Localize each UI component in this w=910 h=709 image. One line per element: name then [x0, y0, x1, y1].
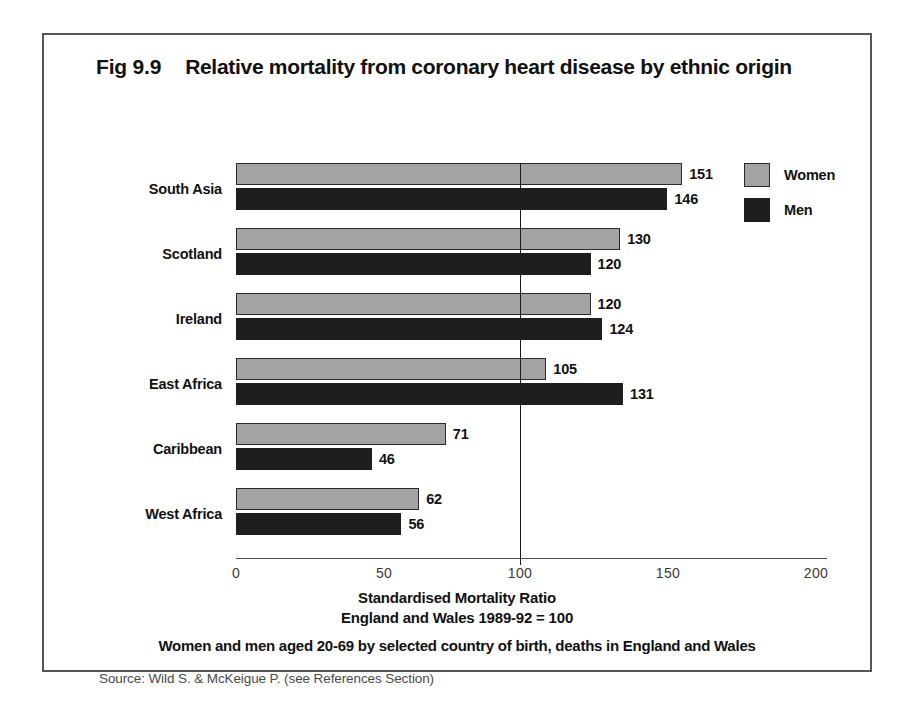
category-label-scotland: Scotland	[44, 246, 222, 262]
figure-frame: Fig 9.9 Relative mortality from coronary…	[42, 33, 872, 672]
bar-value-scotland-women: 130	[627, 231, 651, 247]
bar-south-asia-women[interactable]	[236, 163, 682, 185]
bar-value-east-africa-women: 105	[553, 361, 577, 377]
bar-west-africa-men[interactable]	[236, 513, 401, 535]
chart-plot-area: South Asia Scotland Ireland East Africa …	[44, 35, 870, 670]
chart-legend: Women Men	[744, 163, 835, 233]
bar-ireland-men[interactable]	[236, 318, 602, 340]
bar-scotland-men[interactable]	[236, 253, 591, 275]
bar-value-east-africa-men: 131	[630, 386, 654, 402]
category-label-west-africa: West Africa	[44, 506, 222, 522]
reference-line-100	[520, 163, 521, 565]
bar-scotland-women[interactable]	[236, 228, 620, 250]
legend-swatch-men-icon	[744, 198, 770, 222]
bar-caribbean-men[interactable]	[236, 448, 372, 470]
bar-value-south-asia-women: 151	[689, 166, 713, 182]
legend-label-women: Women	[784, 167, 835, 183]
bar-value-west-africa-men: 56	[408, 516, 424, 532]
x-axis-line	[236, 558, 827, 559]
bar-value-ireland-women: 120	[598, 296, 622, 312]
bar-south-asia-men[interactable]	[236, 188, 667, 210]
x-tick-200: 200	[791, 565, 841, 581]
category-label-caribbean: Caribbean	[44, 441, 222, 457]
x-tick-150: 150	[643, 565, 693, 581]
figure-sub-caption: Women and men aged 20-69 by selected cou…	[44, 637, 870, 654]
axis-caption-primary: Standardised Mortality Ratio	[44, 589, 870, 606]
legend-label-men: Men	[784, 202, 812, 218]
legend-item-men[interactable]: Men	[744, 198, 835, 222]
figure-source: Source: Wild S. & McKeigue P. (see Refer…	[99, 671, 434, 686]
category-label-ireland: Ireland	[44, 311, 222, 327]
x-tick-100: 100	[495, 565, 545, 581]
x-tick-50: 50	[359, 565, 409, 581]
bar-ireland-women[interactable]	[236, 293, 591, 315]
bar-east-africa-women[interactable]	[236, 358, 546, 380]
bar-value-scotland-men: 120	[598, 256, 622, 272]
bar-value-caribbean-women: 71	[453, 426, 469, 442]
bar-value-ireland-men: 124	[609, 321, 633, 337]
legend-item-women[interactable]: Women	[744, 163, 835, 187]
category-label-south-asia: South Asia	[44, 181, 222, 197]
axis-caption-secondary: England and Wales 1989-92 = 100	[44, 609, 870, 626]
category-label-east-africa: East Africa	[44, 376, 222, 392]
bar-caribbean-women[interactable]	[236, 423, 446, 445]
bar-value-south-asia-men: 146	[674, 191, 698, 207]
bar-east-africa-men[interactable]	[236, 383, 623, 405]
x-tick-0: 0	[211, 565, 261, 581]
bar-value-west-africa-women: 62	[426, 491, 442, 507]
bar-value-caribbean-men: 46	[379, 451, 395, 467]
legend-swatch-women-icon	[744, 163, 770, 187]
bar-west-africa-women[interactable]	[236, 488, 419, 510]
